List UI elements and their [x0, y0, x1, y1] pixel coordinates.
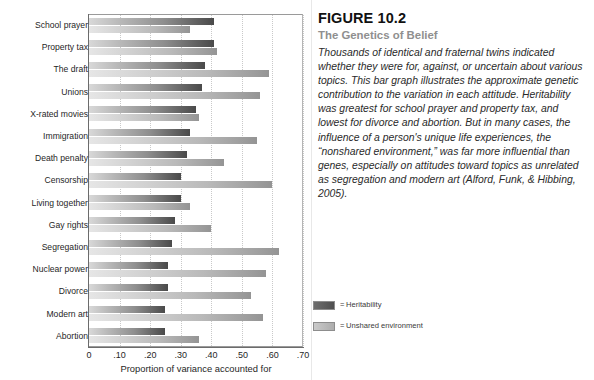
bar-heritability: [89, 129, 190, 136]
category-label: Abortion: [2, 331, 88, 341]
bar-unshared-environment: [89, 114, 199, 121]
x-tick-label: .10: [113, 350, 126, 361]
category-label: Censorship: [2, 175, 88, 185]
category-label: Living together: [2, 198, 88, 208]
chart-category-row: Living together: [0, 192, 312, 214]
x-axis-ticks: 0.10.20.30.40.50.60.70: [0, 350, 312, 364]
bar-unshared-environment: [89, 70, 269, 77]
bar-unshared-environment: [89, 225, 211, 232]
bar-heritability: [89, 217, 175, 224]
chart-category-row: Censorship: [0, 169, 312, 191]
bar-unshared-environment: [89, 270, 266, 277]
chart-category-row: Property tax: [0, 36, 312, 58]
bar-unshared-environment: [89, 292, 251, 299]
x-tick-label: .60: [266, 350, 279, 361]
bar-chart: School prayerProperty taxThe draftUnions…: [0, 0, 312, 380]
bar-heritability: [89, 18, 214, 25]
chart-category-row: Modern art: [0, 303, 312, 325]
category-label: Property tax: [2, 42, 88, 52]
bar-heritability: [89, 151, 187, 158]
bar-unshared-environment: [89, 314, 263, 321]
figure-number: FIGURE 10.2: [318, 10, 586, 27]
x-tick-label: .50: [236, 350, 249, 361]
legend-equals-sign: =: [340, 321, 344, 331]
chart-category-row: Segregation: [0, 236, 312, 258]
bar-heritability: [89, 240, 172, 247]
x-tick-label: .30: [174, 350, 187, 361]
x-tick-label: 0: [86, 350, 91, 361]
category-label: School prayer: [2, 20, 88, 30]
x-tick-label: .40: [205, 350, 218, 361]
bar-heritability: [89, 284, 168, 291]
chart-legend: =Heritability=Unshared environment: [313, 300, 453, 342]
chart-rows: School prayerProperty taxThe draftUnions…: [0, 14, 312, 347]
category-label: Gay rights: [2, 220, 88, 230]
bar-heritability: [89, 262, 168, 269]
chart-category-row: Death penalty: [0, 147, 312, 169]
category-label: Modern art: [2, 309, 88, 319]
category-label: X-rated movies: [2, 109, 88, 119]
category-label: Immigration: [2, 131, 88, 141]
bar-heritability: [89, 328, 165, 335]
legend-swatch: [313, 322, 335, 331]
bar-unshared-environment: [89, 26, 190, 33]
bar-unshared-environment: [89, 92, 260, 99]
chart-category-row: X-rated movies: [0, 103, 312, 125]
figure-title: The Genetics of Belief: [318, 28, 586, 43]
x-axis-title: Proportion of variance accounted for: [88, 363, 304, 375]
bar-unshared-environment: [89, 159, 224, 166]
figure-container: School prayerProperty taxThe draftUnions…: [0, 0, 594, 380]
panel-divider: [311, 0, 312, 380]
legend-label: Heritability: [346, 300, 446, 310]
x-tick-label: .20: [144, 350, 157, 361]
category-label: Segregation: [2, 242, 88, 252]
chart-category-row: Nuclear power: [0, 258, 312, 280]
x-tick-label: .70: [297, 350, 310, 361]
legend-label: Unshared environment: [346, 321, 446, 331]
chart-category-row: Gay rights: [0, 214, 312, 236]
legend-swatch: [313, 301, 335, 310]
category-label: Nuclear power: [2, 264, 88, 274]
bar-unshared-environment: [89, 248, 279, 255]
figure-body-text: Thousands of identical and fraternal twi…: [318, 46, 586, 201]
x-axis-line: [88, 347, 304, 348]
bar-heritability: [89, 306, 165, 313]
legend-equals-sign: =: [340, 300, 344, 310]
legend-item: =Unshared environment: [313, 321, 453, 342]
bar-heritability: [89, 40, 214, 47]
category-label: Unions: [2, 87, 88, 97]
category-label: The draft: [2, 64, 88, 74]
chart-category-row: Divorce: [0, 280, 312, 302]
bar-unshared-environment: [89, 336, 199, 343]
chart-category-row: Immigration: [0, 125, 312, 147]
category-label: Divorce: [2, 286, 88, 296]
chart-category-row: Unions: [0, 81, 312, 103]
figure-caption: FIGURE 10.2 The Genetics of Belief Thous…: [318, 10, 586, 201]
bar-unshared-environment: [89, 48, 217, 55]
category-label: Death penalty: [2, 153, 88, 163]
bar-heritability: [89, 62, 205, 69]
bar-unshared-environment: [89, 203, 190, 210]
chart-category-row: The draft: [0, 58, 312, 80]
chart-category-row: Abortion: [0, 325, 312, 347]
bar-heritability: [89, 173, 181, 180]
legend-item: =Heritability: [313, 300, 453, 321]
bar-unshared-environment: [89, 137, 257, 144]
bar-unshared-environment: [89, 181, 272, 188]
bar-heritability: [89, 84, 202, 91]
bar-heritability: [89, 195, 181, 202]
chart-category-row: School prayer: [0, 14, 312, 36]
bar-heritability: [89, 106, 196, 113]
